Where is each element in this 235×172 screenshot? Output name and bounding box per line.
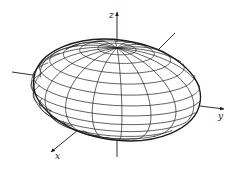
wire-line [33,63,200,106]
wire-line [117,48,122,139]
z-axis-label: z [108,10,114,20]
x-axis [51,130,78,152]
y-axis-label: y [217,111,224,121]
axes [12,12,224,157]
wire-line [32,47,117,111]
ellipsoid-wireframe [27,29,207,151]
ellipsoid-diagram: z y x [0,0,235,172]
y-axis-negative [12,72,33,75]
wire-line [50,110,172,137]
wire-line [40,53,195,95]
y-axis [200,106,224,109]
x-axis-negative [158,33,175,50]
x-axis-label: x [55,151,60,161]
